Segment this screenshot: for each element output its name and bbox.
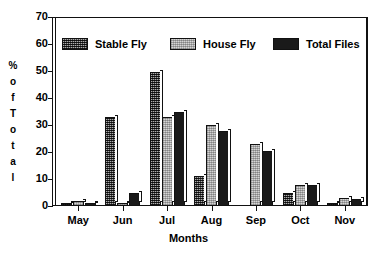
y-axis-title-char: l	[4, 170, 22, 186]
y-axis-title-char: t	[4, 138, 22, 154]
bar-sep-house-fly[interactable]	[250, 144, 261, 206]
x-axis-title: Months	[0, 232, 377, 244]
bar-oct-stable-fly[interactable]	[283, 193, 294, 206]
y-axis-tick-label: 10	[26, 173, 48, 184]
bar-jul-total-files[interactable]	[174, 112, 185, 206]
y-axis-tick-label: 50	[26, 65, 48, 76]
house-fly-swatch-icon	[170, 38, 196, 50]
legend-item-total-files[interactable]: Total Files	[273, 34, 360, 54]
bar-nov-house-fly[interactable]	[339, 198, 350, 206]
bar-jul-stable-fly[interactable]	[150, 72, 161, 206]
stable-fly-swatch-icon	[62, 38, 88, 50]
legend-item-house-fly[interactable]: House Fly	[170, 34, 256, 54]
legend-label: Stable Fly	[95, 39, 147, 50]
x-axis-tick-mark	[167, 206, 168, 211]
bar-nov-total-files[interactable]	[351, 199, 362, 206]
legend-label: Total Files	[306, 39, 360, 50]
x-axis-tick-label-aug: Aug	[189, 214, 235, 226]
bar-aug-house-fly[interactable]	[206, 125, 217, 206]
bar-oct-house-fly[interactable]	[295, 185, 306, 206]
legend-label: House Fly	[203, 39, 256, 50]
x-axis-tick-label-oct: Oct	[277, 214, 323, 226]
legend-item-stable-fly[interactable]: Stable Fly	[62, 34, 147, 54]
x-axis-tick-mark	[345, 206, 346, 211]
bar-aug-total-files[interactable]	[218, 131, 229, 206]
y-axis-tick-mark	[48, 98, 53, 99]
y-axis-tick-mark	[48, 71, 53, 72]
bar-chart-figure: % o f T o t a l 010203040506070 Stable F…	[0, 0, 377, 258]
bar-jun-stable-fly[interactable]	[105, 117, 116, 206]
y-axis-tick-mark	[48, 125, 53, 126]
y-axis-tick-label: 40	[26, 92, 48, 103]
y-axis-tick-mark	[48, 179, 53, 180]
y-axis-tick-mark	[48, 206, 53, 207]
x-axis-tick-label-sep: Sep	[233, 214, 279, 226]
x-axis-tick-label-may: May	[55, 214, 101, 226]
y-axis-title: % o f T o t a l	[4, 58, 22, 186]
y-axis-title-char: a	[4, 154, 22, 170]
x-axis-tick-mark	[256, 206, 257, 211]
bar-aug-stable-fly[interactable]	[194, 176, 205, 206]
bar-may-total-files[interactable]	[85, 203, 96, 206]
total-files-swatch-icon	[273, 38, 299, 50]
bar-nov-stable-fly[interactable]	[327, 203, 338, 206]
x-axis-tick-mark	[212, 206, 213, 211]
y-axis-tick-label: 30	[26, 119, 48, 130]
bar-jul-house-fly[interactable]	[162, 117, 173, 206]
y-axis-tick-labels: 010203040506070	[22, 0, 48, 258]
x-axis-tick-mark	[78, 206, 79, 211]
y-axis-title-char: f	[4, 90, 22, 106]
bar-sep-total-files[interactable]	[262, 151, 273, 206]
chart-legend: Stable Fly House Fly Total Files	[62, 34, 362, 54]
y-axis-title-char: o	[4, 122, 22, 138]
x-axis-tick-label-nov: Nov	[322, 214, 368, 226]
y-axis-tick-mark	[48, 44, 53, 45]
y-axis-tick-mark	[48, 17, 53, 18]
y-axis-title-char: %	[4, 58, 22, 74]
y-axis-tick-mark	[48, 152, 53, 153]
y-axis-tick-label: 70	[26, 11, 48, 22]
x-axis-tick-mark	[300, 206, 301, 211]
bar-jun-total-files[interactable]	[129, 193, 140, 206]
bar-oct-total-files[interactable]	[307, 185, 318, 206]
y-axis-tick-label: 0	[26, 200, 48, 211]
y-axis-title-char: o	[4, 74, 22, 90]
x-axis-tick-label-jul: Jul	[144, 214, 190, 226]
x-axis-tick-mark	[123, 206, 124, 211]
y-axis-tick-label: 20	[26, 146, 48, 157]
x-axis-tick-label-jun: Jun	[100, 214, 146, 226]
y-axis-title-char: T	[4, 106, 22, 122]
bar-may-stable-fly[interactable]	[61, 203, 72, 206]
y-axis-tick-label: 60	[26, 38, 48, 49]
